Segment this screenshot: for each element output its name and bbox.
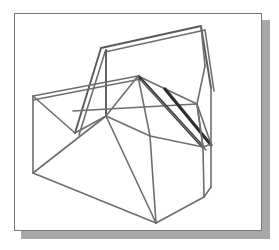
wireframe-edge-right-wing-lower [197,66,205,104]
wireframe-edge-slab-bold-right [165,89,211,145]
wireframe-edge-body-bottom-right [156,197,204,223]
wireframe-edge-right-body-vertical [203,147,204,197]
wireframe-edge-left-long-edge [33,76,138,96]
wireframe-edge-right-bottom-fold [204,187,211,197]
wireframe-edge-layer [33,26,214,223]
wireframe-edge-left-fold-top [33,96,75,133]
wireframe-edge-left-gable-inner [79,52,105,135]
wireframe-edge-inner-vertical [150,136,156,223]
figure-root [0,0,279,250]
wireframe-edge-top-ridge-outer [101,26,201,48]
wireframe-edge-left-bottom-run [33,173,156,223]
wireframe-edge-left-fold-bot [33,116,106,173]
wireframe-drawing [15,14,263,232]
wireframe-edge-hub-diagonal-down [106,116,150,136]
wireframe-edge-top-ridge-inner [105,30,205,52]
figure-frame [14,13,262,231]
